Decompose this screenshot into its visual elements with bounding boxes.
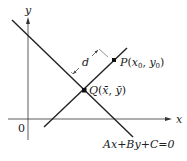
y-axis-arrow-icon (26, 17, 30, 24)
distance-point-line-diagram: y x 0 d P(x0, y0) Q(x̄, ȳ) Ax+By+C=0 (0, 0, 187, 161)
point-p-label: P(x0, y0) (119, 56, 164, 70)
distance-dimension (71, 49, 108, 74)
axes (8, 17, 172, 140)
line-equation-label: Ax+By+C=0 (102, 138, 175, 151)
line-l (12, 20, 133, 137)
point-p-marker (112, 58, 116, 62)
distance-label: d (82, 56, 89, 69)
point-q-name: Q (89, 84, 98, 97)
point-q-marker (82, 88, 87, 93)
x-axis-arrow-icon (165, 117, 172, 121)
origin-label: 0 (18, 122, 25, 135)
point-q-label: Q(x̄, ȳ) (89, 84, 126, 97)
y-axis-label: y (24, 4, 32, 17)
x-axis-label: x (176, 113, 183, 126)
